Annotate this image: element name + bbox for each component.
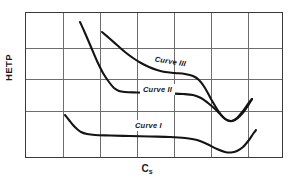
x-axis-title: Cs (0, 163, 294, 175)
figure-canvas: Curve III Curve II Curve I HETP Cs (0, 0, 294, 188)
y-axis-title: HETP (3, 38, 14, 98)
curve-label-1: Curve I (132, 120, 165, 131)
curve-label-2: Curve II (140, 84, 175, 95)
curve-path-curve-3 (102, 32, 252, 121)
x-axis-title-base: C (141, 163, 148, 174)
x-axis-title-subscript: s (149, 168, 153, 175)
